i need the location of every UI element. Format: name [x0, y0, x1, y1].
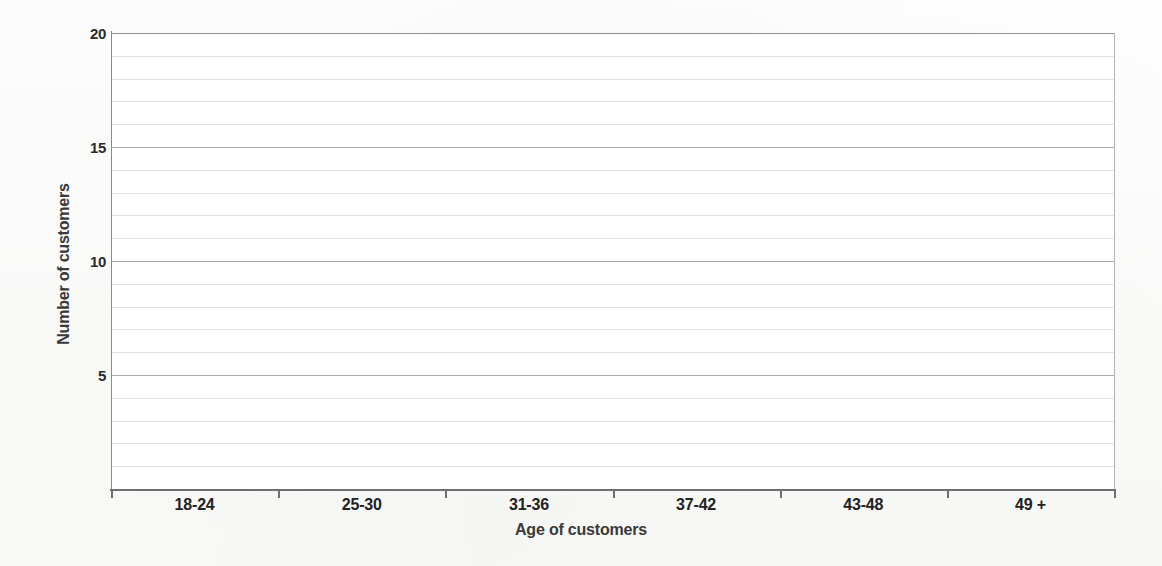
gridline — [111, 101, 1114, 102]
x-axis-category-label: 43-48 — [843, 496, 883, 514]
x-axis-category-label: 49 + — [1015, 496, 1046, 514]
gridline — [111, 261, 1114, 262]
gridline — [111, 170, 1114, 171]
gridline — [111, 284, 1114, 285]
x-axis-tick — [1114, 489, 1116, 498]
x-axis-tick — [947, 489, 949, 498]
gridline — [111, 375, 1114, 376]
y-axis-tick-label: 15 — [72, 140, 106, 155]
x-axis-tick — [278, 489, 280, 498]
gridline — [111, 466, 1114, 467]
y-axis-tick-label: 10 — [72, 254, 106, 269]
x-axis-tick — [111, 489, 113, 498]
gridline — [111, 421, 1114, 422]
gridline — [111, 56, 1114, 57]
y-axis-line — [111, 31, 112, 491]
gridline — [111, 79, 1114, 80]
gridline — [111, 238, 1114, 239]
x-axis-category-label: 37-42 — [676, 496, 716, 514]
gridline — [111, 307, 1114, 308]
gridline — [111, 329, 1114, 330]
x-axis-title: Age of customers — [0, 521, 1162, 539]
gridline — [111, 147, 1114, 148]
y-axis-tick-label: 20 — [72, 26, 106, 41]
x-axis-category-label: 18-24 — [175, 496, 215, 514]
x-axis-category-label: 31-36 — [509, 496, 549, 514]
gridline — [111, 443, 1114, 444]
gridline — [111, 398, 1114, 399]
plot-area — [111, 33, 1114, 489]
x-axis-tick — [445, 489, 447, 498]
gridline — [111, 193, 1114, 194]
gridline — [111, 352, 1114, 353]
x-axis-tick — [780, 489, 782, 498]
x-axis-tick — [613, 489, 615, 498]
gridline — [111, 215, 1114, 216]
x-axis-category-label: 25-30 — [342, 496, 382, 514]
chart-page: 2015105 18-2425-3031-3637-4243-4849 + Ag… — [0, 0, 1162, 566]
y-axis-tick-label: 5 — [72, 368, 106, 383]
bar-chart: 2015105 18-2425-3031-3637-4243-4849 + Ag… — [0, 0, 1162, 566]
y-axis-title: Number of customers — [55, 139, 73, 389]
gridline — [111, 33, 1114, 34]
gridline — [111, 124, 1114, 125]
plot-right-border — [1114, 33, 1115, 489]
